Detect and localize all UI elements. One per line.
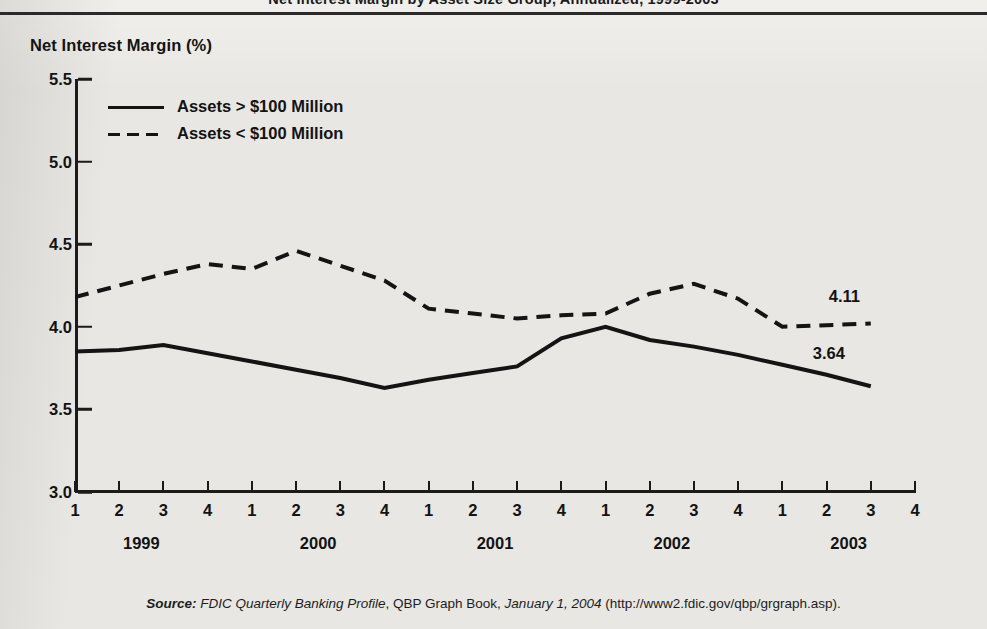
title-divider-rule [0,12,987,15]
series-line-assets-over-100m [75,327,871,388]
x-axis-quarter-label: 4 [547,501,575,520]
x-axis-quarter-label: 2 [813,501,841,520]
legend-swatch-solid [108,100,164,114]
x-axis-quarter-label: 4 [724,501,752,520]
y-axis-tick-label: 4.0 [28,317,72,336]
y-axis-tick-label: 5.5 [28,70,72,89]
source-middle: , QBP Graph Book, [386,596,505,611]
chart-title: Net Interest Margin by Asset Size Group,… [0,0,987,7]
x-axis-quarter-label: 2 [105,501,133,520]
x-axis-year-label: 2000 [273,534,363,553]
y-axis-tick-label: 4.5 [28,235,72,254]
x-axis-quarter-label: 3 [149,501,177,520]
x-axis-quarter-label: 1 [768,501,796,520]
source-url: (http://www2.fdic.gov/qbp/grgraph.asp). [601,596,840,611]
data-label-assets-under-100m: 4.11 [829,287,860,306]
y-axis-labels: 3.03.54.04.55.05.5 [16,0,72,629]
chart-title-clipped: Net Interest Margin by Asset Size Group,… [0,0,987,7]
x-axis-quarter-label: 3 [857,501,885,520]
series-line-assets-under-100m [75,251,871,327]
y-axis-tick-label: 3.5 [28,400,72,419]
x-axis-year-label: 2003 [804,534,894,553]
x-axis-quarter-label: 3 [680,501,708,520]
source-date: January 1, 2004 [505,596,602,611]
x-axis-year-label: 2002 [627,534,717,553]
chart-page: Net Interest Margin by Asset Size Group,… [0,0,987,629]
x-axis-quarter-label: 1 [238,501,266,520]
x-axis-quarter-label: 2 [282,501,310,520]
x-axis-quarter-label: 4 [901,501,929,520]
source-note: Source: FDIC Quarterly Banking Profile, … [0,596,987,611]
legend-swatch-dashed [108,127,164,141]
legend-label-assets-over-100m: Assets > $100 Million [177,97,343,116]
data-label-assets-over-100m: 3.64 [813,344,845,363]
x-axis-quarter-label: 3 [326,501,354,520]
x-axis-quarter-label: 4 [370,501,398,520]
x-axis-quarter-label: 1 [592,501,620,520]
x-axis-quarter-label: 3 [503,501,531,520]
legend-item-assets-under-100m: Assets < $100 Million [108,120,343,147]
x-axis-quarter-label: 1 [61,501,89,520]
y-axis-tick-label: 3.0 [28,483,72,502]
x-axis-year-label: 2001 [450,534,540,553]
y-axis-tick-label: 5.0 [28,152,72,171]
x-axis-year-label: 1999 [96,534,186,553]
x-axis-quarter-label: 1 [415,501,443,520]
legend-label-assets-under-100m: Assets < $100 Million [177,124,343,143]
source-lead: Source: [146,596,196,611]
x-axis-quarter-label: 2 [459,501,487,520]
chart-legend: Assets > $100 Million Assets < $100 Mill… [108,93,343,147]
source-publication: FDIC Quarterly Banking Profile [200,596,385,611]
x-axis-quarter-label: 2 [636,501,664,520]
x-axis-quarter-label: 4 [194,501,222,520]
legend-item-assets-over-100m: Assets > $100 Million [108,93,343,120]
